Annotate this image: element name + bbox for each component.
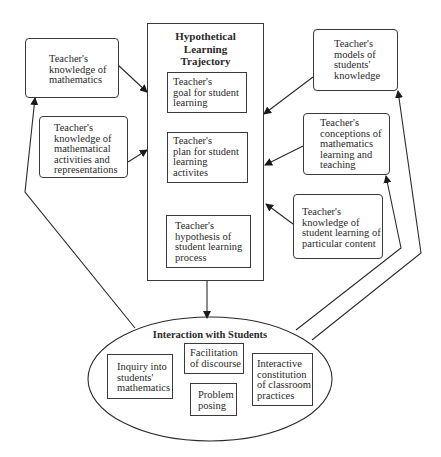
knowledge-math-label: Teacher's knowledge of mathematics	[49, 54, 106, 86]
conceptions-label: Teacher's conceptions of mathematics lea…	[320, 118, 382, 171]
arrow-student-learning-to-hlt	[266, 204, 293, 224]
knowledge-student-learning-label: Teacher's knowledge of student learning …	[302, 207, 381, 249]
knowledge-math-box: Teacher's knowledge of mathematics	[25, 38, 119, 98]
conceptions-box: Teacher's conceptions of mathematics lea…	[303, 113, 390, 175]
goal-box: Teacher's goal for student learning	[167, 72, 247, 113]
knowledge-activities-box: Teacher's knowledge of mathematical acti…	[39, 116, 128, 178]
goal-label: Teacher's goal for student learning	[173, 77, 239, 109]
arrow-conceptions-to-hlt	[265, 146, 303, 165]
hypothesis-box: Teacher's hypothesis of student learning…	[166, 215, 251, 268]
knowledge-activities-label: Teacher's knowledge of mathematical acti…	[54, 123, 118, 176]
knowledge-student-learning-box: Teacher's knowledge of student learning …	[293, 194, 383, 259]
arrow-knowledge-math-to-hlt	[118, 65, 147, 92]
facilitation-label: Facilitation of discourse	[190, 348, 241, 369]
interactive-constitution-box: Interactive constitution of classroom pr…	[252, 353, 313, 406]
arrow-models-to-hlt	[264, 77, 313, 114]
problem-posing-box: Problem posing	[190, 383, 237, 416]
interaction-title: Interaction with Students	[150, 329, 270, 340]
models-students-label: Teacher's models of students' knowledge	[334, 39, 380, 81]
inquiry-label: Inquiry into students' mathematics	[117, 362, 170, 394]
interactive-constitution-label: Interactive constitution of classroom pr…	[257, 359, 311, 401]
plan-label: Teacher's plan for student learning acti…	[173, 136, 239, 178]
inquiry-box: Inquiry into students' mathematics	[107, 354, 173, 399]
arrow-activities-to-hlt	[128, 150, 147, 162]
plan-box: Teacher's plan for student learning acti…	[167, 132, 248, 183]
models-students-box: Teacher's models of students' knowledge	[313, 29, 398, 91]
hlt-title: Hypothetical Learning Trajectory	[148, 30, 263, 68]
problem-posing-label: Problem posing	[198, 390, 234, 411]
hypothesis-label: Teacher's hypothesis of student learning…	[175, 221, 242, 263]
facilitation-box: Facilitation of discourse	[184, 343, 244, 374]
